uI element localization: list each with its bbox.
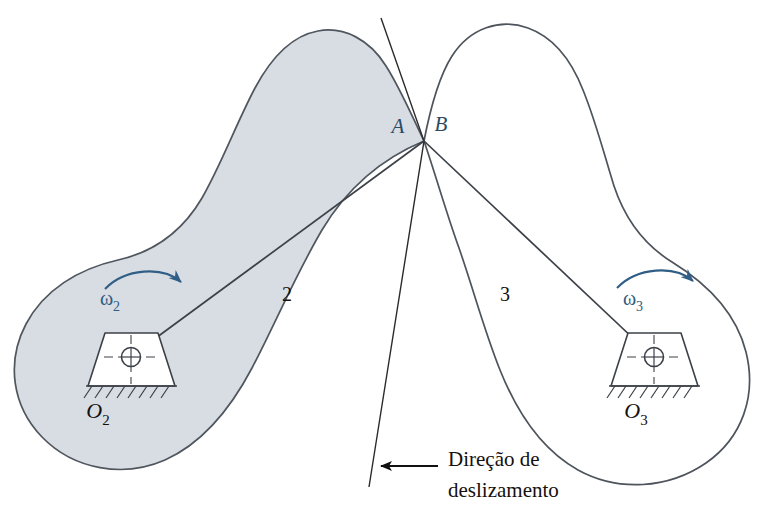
body-3-shape xyxy=(424,24,750,484)
contact-label-a: A xyxy=(390,114,405,138)
contact-label-b: B xyxy=(435,112,448,136)
body-3-number: 3 xyxy=(500,283,510,305)
sliding-direction-line2: deslizamento xyxy=(448,478,559,502)
kinematics-diagram: A B 2 3 ω2 ω3 O2 O3 Direção de deslizame… xyxy=(0,0,777,518)
body-2-shape xyxy=(14,30,424,469)
omega-3-subscript: 3 xyxy=(636,299,643,314)
pivot-o2-letter: O xyxy=(86,398,102,423)
pivot-o2-subscript: 2 xyxy=(102,412,110,428)
omega-3-symbol: ω xyxy=(623,287,636,309)
pivot-o3-subscript: 3 xyxy=(640,412,648,428)
body-2-number: 2 xyxy=(282,283,292,305)
diagram-canvas: A B 2 3 ω2 ω3 O2 O3 Direção de deslizame… xyxy=(0,0,777,518)
pivot-o3-letter: O xyxy=(624,398,640,423)
omega-2-subscript: 2 xyxy=(113,299,120,314)
sliding-direction-line1: Direção de xyxy=(448,447,540,471)
omega-2-symbol: ω xyxy=(100,287,113,309)
